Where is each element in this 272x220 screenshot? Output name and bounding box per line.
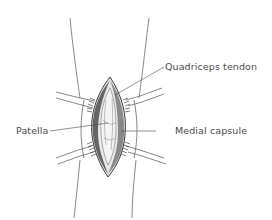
leader-quadriceps-tendon [115,67,164,95]
label-medial-capsule: Medial capsule [175,125,247,136]
label-patella: Patella [16,125,49,136]
knee-arthrotomy-illustration: Quadriceps tendon Patella Medial capsule [0,0,272,220]
incision-wound [87,77,130,177]
label-quadriceps-tendon: Quadriceps tendon [165,61,257,72]
illustration-drawing [0,0,272,220]
